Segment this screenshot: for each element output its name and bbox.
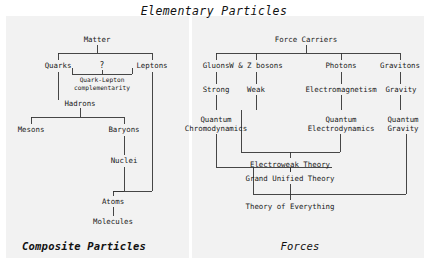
diagram-canvas: Elementary Particles Matter Quarks ? Lep… xyxy=(0,0,428,266)
node-mesons: Mesons xyxy=(18,126,45,135)
label-quark-lepton-complementarity-line2: complementarity xyxy=(74,84,130,91)
node-gravity: Gravity xyxy=(385,86,416,95)
node-gravitons: Gravitons xyxy=(380,62,420,71)
node-molecules: Molecules xyxy=(93,218,133,227)
node-quantum-electrodynamics-line2: Electrodynamics xyxy=(308,125,375,134)
node-electroweak-theory: Electroweak Theory xyxy=(250,161,330,170)
node-atoms: Atoms xyxy=(102,198,124,207)
node-strong: Strong xyxy=(203,86,230,95)
node-force-carriers: Force Carriers xyxy=(275,36,337,45)
node-quantum-chromodynamics-line2: Chromodynamics xyxy=(185,125,247,134)
node-hadrons: Hadrons xyxy=(64,100,95,109)
left-panel-caption: Composite Particles xyxy=(22,240,146,252)
node-grand-unified-theory: Grand Unified Theory xyxy=(246,175,335,184)
node-electromagnetism: Electromagnetism xyxy=(305,86,376,95)
node-gluons: Gluons xyxy=(203,62,230,71)
node-matter: Matter xyxy=(84,36,111,45)
node-photons: Photons xyxy=(325,62,356,71)
node-leptons: Leptons xyxy=(136,62,167,71)
node-question-mark: ? xyxy=(100,62,105,71)
node-baryons: Baryons xyxy=(108,126,139,135)
node-quantum-gravity-line2: Gravity xyxy=(387,125,418,134)
node-weak: Weak xyxy=(247,86,265,95)
right-panel-caption: Forces xyxy=(280,240,319,252)
node-quarks: Quarks xyxy=(45,62,72,71)
node-theory-of-everything: Theory of Everything xyxy=(246,203,335,212)
node-nuclei: Nuclei xyxy=(111,157,138,166)
node-w-z-bosons: W & Z bosons xyxy=(229,62,282,71)
label-quark-lepton-complementarity-line1: Quark-Lepton xyxy=(80,76,125,83)
figure-title: Elementary Particles xyxy=(141,4,287,18)
